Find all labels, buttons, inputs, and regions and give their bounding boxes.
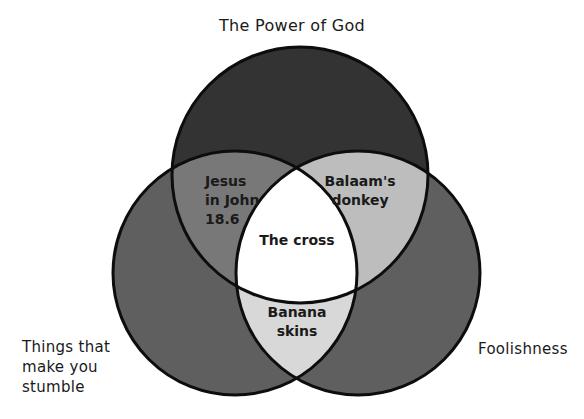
region-label-left-right: Banana skins: [260, 303, 334, 341]
set-label-right: Foolishness: [478, 339, 568, 359]
region-label-top-right: Balaam's donkey: [320, 172, 400, 210]
region-label-center: The cross: [245, 231, 349, 250]
set-label-top: The Power of God: [0, 16, 584, 36]
region-label-top-left: Jesus in John 18.6: [205, 172, 267, 229]
set-label-left: Things that make you stumble: [22, 337, 110, 397]
